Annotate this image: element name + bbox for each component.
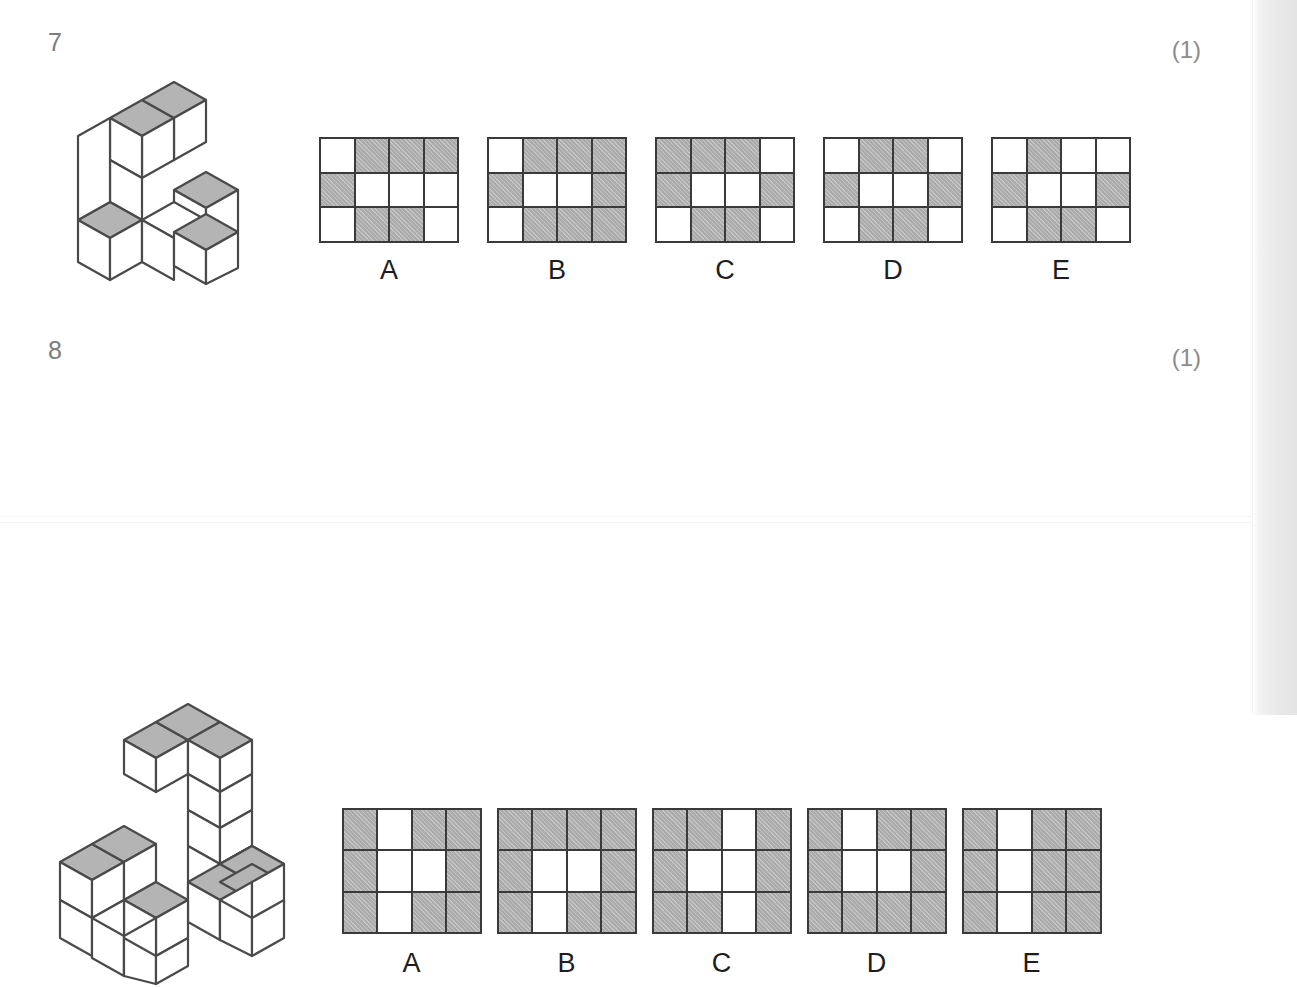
grid-cell [413, 851, 446, 890]
question-number: 7 [48, 30, 62, 55]
answer-option-a[interactable]: A [334, 808, 489, 977]
answer-grid[interactable] [807, 808, 947, 934]
answer-grid[interactable] [962, 808, 1102, 934]
grid-cell [568, 810, 601, 849]
answer-grid[interactable] [319, 137, 459, 243]
grid-cell [1097, 174, 1130, 207]
option-label: B [548, 257, 566, 284]
grid-cell [726, 208, 759, 241]
grid-cell [378, 810, 411, 849]
answer-options-8: A B [334, 808, 1109, 977]
grid-cell [1062, 139, 1095, 172]
answer-grid[interactable] [342, 808, 482, 934]
grid-cell [489, 139, 522, 172]
answer-grid[interactable] [497, 808, 637, 934]
grid-cell [1067, 851, 1100, 890]
answer-option-d[interactable]: D [799, 808, 954, 977]
grid-cell [964, 893, 997, 932]
grid-cell [447, 810, 480, 849]
grid-cell [524, 174, 557, 207]
grid-cell [692, 139, 725, 172]
grid-cell [413, 893, 446, 932]
answer-grid[interactable] [655, 137, 795, 243]
answer-option-c[interactable]: C [641, 137, 809, 284]
grid-cell [321, 208, 354, 241]
grid-cell [726, 139, 759, 172]
grid-cell [964, 851, 997, 890]
page-edge-shading [1253, 0, 1297, 715]
grid-cell [878, 851, 911, 890]
grid-cell [321, 174, 354, 207]
grid-cell [533, 810, 566, 849]
grid-cell [425, 139, 458, 172]
answer-option-e[interactable]: E [954, 808, 1109, 977]
grid-cell [998, 893, 1031, 932]
answer-option-d[interactable]: D [809, 137, 977, 284]
isometric-solid-svg [44, 688, 319, 988]
grid-cell [809, 810, 842, 849]
grid-cell [993, 208, 1026, 241]
grid-cell [894, 139, 927, 172]
grid-cell [723, 810, 756, 849]
answer-grid[interactable] [487, 137, 627, 243]
grid-cell [558, 139, 591, 172]
grid-cell [825, 174, 858, 207]
grid-cell [912, 851, 945, 890]
grid-cell [1033, 810, 1066, 849]
grid-cell [533, 893, 566, 932]
option-label: E [1022, 950, 1040, 977]
grid-cell [692, 208, 725, 241]
grid-cell [726, 174, 759, 207]
grid-cell [688, 851, 721, 890]
grid-cell [524, 208, 557, 241]
question-block-7: 7 (1) [0, 0, 1253, 318]
answer-grid[interactable] [652, 808, 792, 934]
page-edge-divider [1252, 0, 1253, 715]
question-marks: (1) [1172, 346, 1201, 370]
answer-grid[interactable] [823, 137, 963, 243]
grid-cell [1067, 893, 1100, 932]
grid-cell [568, 893, 601, 932]
grid-cell [860, 174, 893, 207]
grid-cell [602, 851, 635, 890]
grid-cell [657, 139, 690, 172]
question-marks: (1) [1172, 38, 1201, 62]
grid-cell [993, 174, 1026, 207]
grid-cell [558, 208, 591, 241]
isometric-solid-svg [44, 72, 264, 287]
grid-cell [825, 139, 858, 172]
grid-cell [929, 208, 962, 241]
grid-cell [321, 139, 354, 172]
grid-cell [1067, 810, 1100, 849]
grid-cell [489, 174, 522, 207]
grid-cell [993, 139, 1026, 172]
grid-cell [344, 851, 377, 890]
grid-cell [593, 208, 626, 241]
grid-cell [344, 893, 377, 932]
grid-cell [1097, 139, 1130, 172]
grid-cell [378, 893, 411, 932]
answer-option-a[interactable]: A [305, 137, 473, 284]
answer-grid[interactable] [991, 137, 1131, 243]
grid-cell [912, 893, 945, 932]
answer-option-b[interactable]: B [473, 137, 641, 284]
grid-cell [688, 893, 721, 932]
grid-cell [843, 810, 876, 849]
answer-option-b[interactable]: B [489, 808, 644, 977]
grid-cell [447, 893, 480, 932]
grid-cell [425, 174, 458, 207]
grid-cell [1033, 851, 1066, 890]
answer-option-e[interactable]: E [977, 137, 1145, 284]
grid-cell [344, 810, 377, 849]
grid-cell [878, 893, 911, 932]
option-label: D [867, 950, 887, 977]
option-label: B [557, 950, 575, 977]
grid-cell [657, 208, 690, 241]
isometric-cube-solid-8 [44, 688, 319, 988]
grid-cell [757, 893, 790, 932]
grid-cell [425, 208, 458, 241]
grid-cell [413, 810, 446, 849]
option-label: E [1052, 257, 1070, 284]
option-label: A [402, 950, 420, 977]
answer-option-c[interactable]: C [644, 808, 799, 977]
